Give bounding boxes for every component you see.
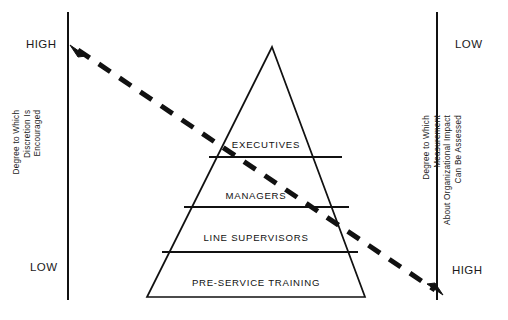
dashed-trend-line <box>78 50 435 290</box>
trend-arrowhead-end <box>427 283 443 295</box>
right-axis-caption: Degree to Which Measurement About Organi… <box>422 115 464 227</box>
right-axis-bottom-label: HIGH <box>452 264 482 276</box>
left-axis-top-label: HIGH <box>26 38 56 50</box>
left-axis-bottom-label: LOW <box>30 261 57 273</box>
right-axis-top-label: LOW <box>455 38 482 50</box>
pyramid-tier-label-executives: EXECUTIVES <box>232 139 300 150</box>
pyramid-tier-label-pre-service-training: PRE-SERVICE TRAINING <box>192 277 320 288</box>
left-axis-caption: Degree to Which Discretion Is Encouraged <box>12 110 44 222</box>
pyramid-diagram: HIGH LOW LOW HIGH Degree to Which Discre… <box>0 0 508 320</box>
pyramid-tier-label-managers: MANAGERS <box>226 190 287 201</box>
pyramid-outline <box>147 47 365 297</box>
pyramid-tier-label-line-supervisors: LINE SUPERVISORS <box>203 232 308 243</box>
